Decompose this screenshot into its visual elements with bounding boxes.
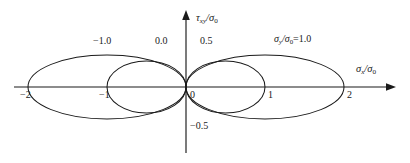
y-axis-arrowhead — [182, 10, 190, 20]
x-tick-label-minus-1: −1 — [99, 90, 110, 100]
y-axis-label: τxy/σ0 — [196, 13, 218, 25]
curve-label-0: 0.0 — [155, 36, 168, 46]
curve-label-0-5: 0.5 — [200, 36, 213, 46]
x-axis-label: σx/σ0 — [356, 64, 376, 76]
y-tick-label-minus-0-5: −0.5 — [190, 121, 208, 131]
x-tick-label-1: 1 — [268, 90, 273, 100]
yield-locus-figure: σx/σ0 τxy/σ0 −2 −1 0 1 2 −0.5 −1.0 0.0 0… — [0, 0, 410, 163]
x-tick-label-0: 0 — [190, 90, 195, 100]
curve-label-sigma-y: σy/σ0=1.0 — [274, 34, 311, 46]
curve-label-minus-1: −1.0 — [93, 36, 111, 46]
x-tick-label-minus-2: −2 — [20, 90, 31, 100]
x-axis-arrowhead — [386, 83, 396, 91]
x-tick-label-2: 2 — [347, 90, 352, 100]
